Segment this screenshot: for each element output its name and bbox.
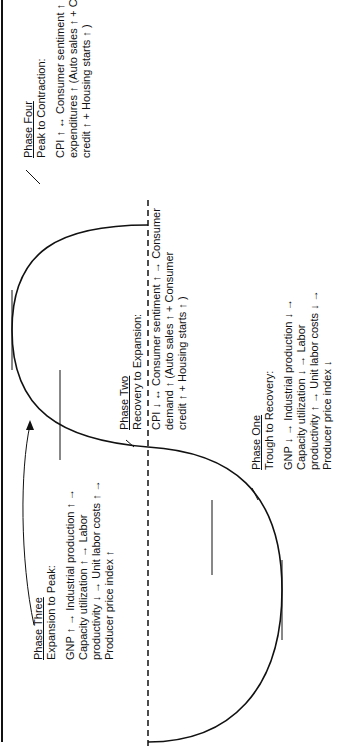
phase-one-title: Phase One — [250, 290, 263, 470]
arrow-phase-one — [252, 488, 258, 500]
phase-four-line: CPI ↑ ↔ Consumer sentiment ↑ → Consumer — [54, 0, 67, 158]
arrow-phase-four — [26, 170, 40, 184]
phase-one-subtitle: Trough to Recovery: — [263, 290, 276, 470]
phase-one-line: Producer price index ↓ — [321, 290, 334, 470]
phase-four-subtitle: Peak to Contraction: — [35, 0, 48, 158]
phase-one-line: productivity ↑ → Unit labor costs ↓ → — [308, 290, 321, 470]
phase-three-label: Phase Three Expansion to Peak: GNP ↑ → I… — [32, 480, 116, 660]
phase-three-subtitle: Expansion to Peak: — [45, 480, 58, 660]
phase-three-title: Phase Three — [32, 480, 45, 660]
phase-two-subtitle: Recovery to Expansion: — [131, 208, 144, 430]
phase-three-line: Producer price index ↑ — [103, 480, 116, 660]
phase-four-label: Phase Four Peak to Contraction: CPI ↑ ↔ … — [22, 0, 93, 158]
phase-three-line: productivity ↓ → Unit labor costs ↑ → — [90, 480, 103, 660]
phase-one-label: Phase One Trough to Recovery: GNP ↓ → In… — [250, 290, 334, 470]
phase-four-line: credit ↑ + Housing starts ↑ ) — [80, 0, 93, 158]
phase-one-line: GNP ↓ → Industrial production ↓ → — [282, 290, 295, 470]
arrowhead-phase-three — [26, 420, 34, 430]
phase-four-line: expenditures ↑ (Auto sales ↑ + Consumer — [67, 0, 80, 158]
phase-two-label: Phase Two Recovery to Expansion: CPI ↓ ↔… — [118, 208, 189, 430]
phase-two-line: credit ↑ + Housing starts ↑ ) — [176, 208, 189, 430]
phase-one-line: Capacity utilization ↓ → Labor — [295, 290, 308, 470]
phase-two-title: Phase Two — [118, 208, 131, 430]
phase-two-line: demand ↑ (Auto sales ↑ + Consumer — [163, 208, 176, 430]
phase-four-title: Phase Four — [22, 0, 35, 158]
phase-three-line: Capacity utilization ↑ → Labor — [77, 480, 90, 660]
phase-three-line: GNP ↑ → Industrial production ↑ → — [64, 480, 77, 660]
phase-two-line: CPI ↓ ↔ Consumer sentiment ↑ → Consumer — [150, 208, 163, 430]
